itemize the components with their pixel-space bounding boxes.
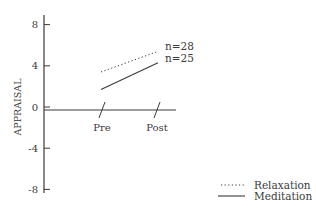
series-lines: n=28n=25 xyxy=(101,40,194,89)
y-tick-label: -8 xyxy=(28,184,38,195)
n-annotation: n=25 xyxy=(165,52,194,64)
x-ticks: PrePost xyxy=(93,102,167,133)
x-tick-label: Pre xyxy=(93,122,111,133)
y-tick-label: 0 xyxy=(32,102,38,113)
legend: Relaxation Meditation xyxy=(218,179,312,202)
y-tick-label: 4 xyxy=(32,60,38,71)
y-tick-label: -4 xyxy=(28,143,38,154)
n-annotation: n=28 xyxy=(165,40,194,52)
x-tick-label: Post xyxy=(146,122,168,133)
line-chart: 840-4-8 PrePost APPRAISAL n=28n=25 Relax… xyxy=(0,0,316,213)
y-axis-title: APPRAISAL xyxy=(12,78,23,137)
series-line-meditation xyxy=(101,63,158,90)
legend-label-meditation: Meditation xyxy=(254,190,312,202)
series-line-relaxation xyxy=(101,51,158,72)
y-ticks: 840-4-8 xyxy=(28,19,50,195)
y-tick-label: 8 xyxy=(32,19,38,30)
